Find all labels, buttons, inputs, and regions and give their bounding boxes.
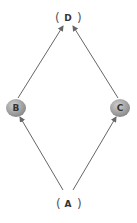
edge-a-c — [73, 117, 116, 190]
node-d: ( D ) — [55, 11, 82, 25]
edge-b-d — [18, 26, 63, 98]
edge-a-b — [20, 117, 63, 190]
svg-text:): ) — [77, 197, 82, 211]
node-a: ( A ) — [56, 197, 82, 211]
svg-text:): ) — [77, 11, 82, 25]
node-d-label: D — [64, 13, 71, 23]
node-a-label: A — [65, 199, 72, 209]
node-c-label: C — [117, 103, 124, 113]
diagram-canvas: ( D ) B C ( A ) — [0, 0, 137, 223]
node-b: B — [6, 99, 26, 117]
node-b-label: B — [13, 103, 20, 113]
node-c: C — [110, 99, 130, 117]
svg-text:(: ( — [55, 11, 60, 25]
svg-text:(: ( — [56, 197, 61, 211]
edge-c-d — [73, 26, 118, 98]
